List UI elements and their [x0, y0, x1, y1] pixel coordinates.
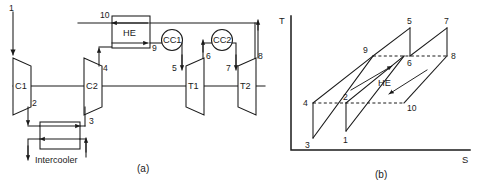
schematic-point-8: 8 — [258, 51, 263, 61]
label-c1: C1 — [15, 81, 27, 91]
label-t2: T2 — [240, 81, 251, 91]
caption-b: (b) — [375, 169, 387, 180]
ts-point-8: 8 — [451, 51, 456, 61]
ts-point-7: 7 — [444, 16, 449, 26]
schematic-point-9: 9 — [152, 43, 157, 53]
ts-diagram: T S HE 1 2 3 — [279, 15, 470, 180]
schematic-diagram: C1 C2 T1 T2 HE CC1 CC2 Intercooler 1 2 3… — [9, 3, 265, 174]
caption-a: (a) — [137, 163, 149, 174]
ts-path-6-7 — [410, 28, 447, 56]
schematic-point-4: 4 — [103, 63, 108, 73]
schematic-point-7: 7 — [226, 63, 231, 73]
ts-point-9: 9 — [363, 45, 368, 55]
line-7-cc2-to-t2 — [232, 43, 236, 66]
ts-point-10: 10 — [407, 103, 417, 113]
figure-svg: C1 C2 T1 T2 HE CC1 CC2 Intercooler 1 2 3… — [0, 0, 481, 187]
ts-path-9-5 — [373, 28, 410, 56]
ts-point-5: 5 — [407, 16, 412, 26]
schematic-point-5: 5 — [172, 63, 177, 73]
label-t1: T1 — [188, 81, 199, 91]
schematic-point-6: 6 — [206, 51, 211, 61]
ts-point-2: 2 — [343, 92, 348, 102]
ts-point-4: 4 — [303, 98, 308, 108]
label-he: HE — [123, 28, 136, 38]
ts-point-1: 1 — [343, 135, 348, 145]
label-cc1: CC1 — [163, 35, 181, 45]
figure-root: C1 C2 T1 T2 HE CC1 CC2 Intercooler 1 2 3… — [0, 0, 481, 187]
label-intercooler: Intercooler — [35, 155, 78, 165]
label-cc2: CC2 — [213, 35, 231, 45]
schematic-point-2: 2 — [32, 98, 37, 108]
ts-path-2-upward — [346, 56, 404, 103]
ts-axis-label-S: S — [462, 154, 468, 165]
ts-path-1-upward — [346, 56, 404, 131]
label-c2: C2 — [86, 81, 98, 91]
ts-point-3: 3 — [305, 140, 310, 150]
schematic-point-10: 10 — [100, 10, 110, 20]
ts-point-6: 6 — [407, 58, 412, 68]
ts-axis-label-T: T — [279, 15, 285, 26]
schematic-point-1: 1 — [9, 3, 14, 13]
coolant-inlet-line — [80, 139, 86, 157]
he-arrow-hot-side — [389, 70, 427, 94]
schematic-point-3: 3 — [89, 116, 94, 126]
ts-label-he: HE — [378, 78, 391, 88]
